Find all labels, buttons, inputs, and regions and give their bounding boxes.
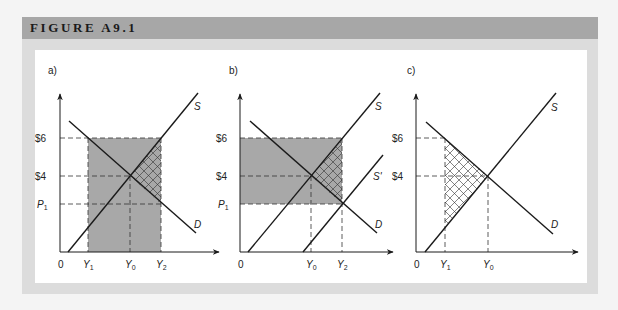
supply-label: S: [375, 101, 382, 112]
origin-label: 0: [238, 259, 244, 270]
demand-label: D: [375, 219, 382, 230]
demand-label: D: [551, 219, 558, 230]
panel-b-label: b): [229, 65, 238, 76]
origin-label: 0: [414, 259, 420, 270]
supply-label: S: [551, 102, 558, 113]
quantity-y2-label: Y2: [156, 259, 167, 271]
price-6-label: $6: [35, 133, 47, 144]
diagram-canvas: a) S D $6 $4 P1 0 Y1 Y0 Y2 b): [0, 0, 618, 310]
supply-label: S: [194, 101, 201, 112]
panel-b: b) S S' D $6 $4 P1 0 Y0 Y2: [216, 65, 393, 271]
price-4-label: $4: [392, 171, 404, 182]
demand-label: D: [194, 219, 201, 230]
supply-shifted-label: S': [373, 171, 383, 182]
origin-label: 0: [58, 259, 64, 270]
price-6-label: $6: [216, 133, 228, 144]
panel-c-label: c): [407, 65, 415, 76]
price-4-label: $4: [35, 171, 47, 182]
quantity-y2-label: Y2: [337, 259, 348, 271]
quantity-y0-label: Y0: [306, 259, 317, 271]
quantity-y0-label: Y0: [483, 259, 494, 271]
panel-a-label: a): [48, 65, 57, 76]
hatched-area: [445, 138, 488, 226]
quantity-y1-label: Y1: [83, 259, 94, 271]
price-4-label: $4: [216, 171, 228, 182]
panel-c: c) S D $6 $4 0 Y1 Y0: [392, 65, 578, 271]
price-6-label: $6: [392, 133, 404, 144]
price-p1-label: P1: [218, 199, 229, 211]
price-p1-label: P1: [37, 199, 48, 211]
quantity-y1-label: Y1: [440, 259, 451, 271]
quantity-y0-label: Y0: [125, 259, 136, 271]
panel-a: a) S D $6 $4 P1 0 Y1 Y0 Y2: [35, 65, 219, 271]
